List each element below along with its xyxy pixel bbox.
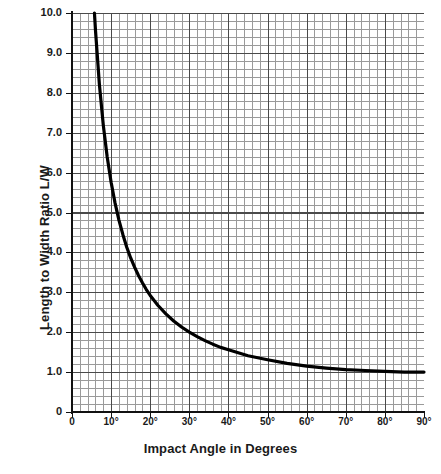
x-tick-label: 0 [52,417,92,427]
y-tick-mark [66,213,72,214]
y-tick-mark [66,173,72,174]
x-tick-label: 10° [91,417,131,427]
x-tick-label: 60° [287,417,327,427]
x-tick-label: 20° [130,417,170,427]
y-tick-label: 5.0 [47,207,62,218]
plot-area-grid [72,13,424,412]
y-tick-label: 7.0 [47,127,62,138]
x-tick-label: 50° [248,417,288,427]
y-tick-mark [66,332,72,333]
y-tick-label: 3.0 [47,286,62,297]
y-tick-mark [66,53,72,54]
y-tick-label: 8.0 [47,87,62,98]
x-tick-label: 40° [208,417,248,427]
y-tick-mark [66,133,72,134]
chart-figure: 01.02.03.04.05.06.07.08.09.010.0 010°20°… [0,0,441,474]
y-tick-label: 9.0 [47,47,62,58]
y-tick-mark [66,252,72,253]
y-tick-mark [66,93,72,94]
x-tick-label: 30° [169,417,209,427]
y-tick-label: 2.0 [47,326,62,337]
y-tick-mark [66,292,72,293]
x-tick-label: 90° [404,417,441,427]
y-tick-label: 10.0 [41,7,62,18]
x-tick-label: 80° [365,417,405,427]
y-tick-label: 0 [56,406,62,417]
y-tick-label: 4.0 [47,246,62,257]
y-tick-mark [66,13,72,14]
y-tick-mark [66,372,72,373]
y-tick-label: 1.0 [47,366,62,377]
x-axis-line [71,411,425,413]
x-axis-title: Impact Angle in Degrees [0,441,441,456]
y-tick-label: 6.0 [47,167,62,178]
x-tick-label: 70° [326,417,366,427]
